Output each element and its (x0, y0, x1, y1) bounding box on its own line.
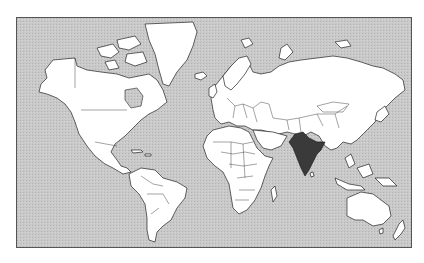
world-map (17, 18, 411, 247)
world-map-frame (16, 17, 412, 248)
